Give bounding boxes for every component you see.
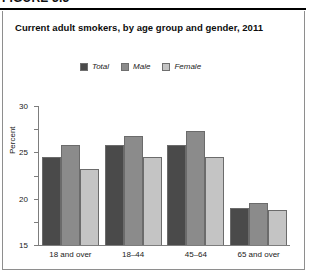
- bar-male: [249, 203, 268, 245]
- bar-group-bars: [102, 106, 165, 245]
- y-tick-mark: 0: [34, 245, 38, 246]
- figure-panel: FIGURE 3.3 Current adult smokers, by age…: [0, 0, 318, 272]
- category-label: 65 and over: [227, 250, 290, 259]
- y-tick-label: 20: [19, 194, 28, 203]
- chart-legend: TotalMaleFemale: [80, 62, 201, 71]
- bar-female: [205, 157, 224, 245]
- x-axis-category-labels: 18 and over18–4445–6465 and over: [39, 250, 290, 259]
- bar-total: [167, 145, 186, 245]
- bar-total: [42, 157, 61, 245]
- bar-group-bars: [39, 106, 102, 245]
- category-label: 45–64: [165, 250, 228, 259]
- y-tick-mark: 20: [34, 152, 38, 153]
- figure-number-label: FIGURE 3.3: [2, 0, 69, 5]
- y-axis-label: Percent: [8, 126, 17, 154]
- figure-divider-rule: [0, 8, 306, 10]
- legend-swatch-total: [80, 63, 88, 71]
- bar-total: [230, 208, 249, 245]
- bar-male: [124, 136, 143, 245]
- bar-male: [186, 131, 205, 245]
- bar-group-bars: [227, 106, 290, 245]
- x-axis-line: [38, 245, 290, 246]
- legend-label-total: Total: [92, 62, 109, 71]
- category-label: 18–44: [102, 250, 165, 259]
- legend-swatch-male: [121, 63, 129, 71]
- y-tick-mark: 30: [34, 106, 38, 107]
- legend-item-male: Male: [121, 62, 150, 71]
- legend-item-total: Total: [80, 62, 109, 71]
- bar-total: [105, 145, 124, 245]
- legend-item-female: Female: [162, 62, 201, 71]
- y-tick-mark: 15: [34, 176, 38, 177]
- bar-group-bars: [165, 106, 228, 245]
- plot-area: 051015202530: [38, 106, 290, 245]
- legend-swatch-female: [162, 63, 170, 71]
- category-label: 18 and over: [39, 250, 102, 259]
- y-tick-mark: 5: [34, 222, 38, 223]
- y-tick-label: 15: [19, 241, 28, 250]
- bar-female: [80, 169, 99, 245]
- y-tick-label: 25: [19, 148, 28, 157]
- bar-female: [268, 210, 287, 245]
- y-tick-label: 30: [19, 102, 28, 111]
- chart-title: Current adult smokers, by age group and …: [15, 22, 263, 33]
- y-tick-mark: 25: [34, 129, 38, 130]
- bar-groups: [39, 106, 290, 245]
- y-tick-mark: 10: [34, 199, 38, 200]
- bar-group: [227, 106, 290, 245]
- bar-male: [61, 145, 80, 245]
- bar-group: [39, 106, 102, 245]
- legend-label-male: Male: [133, 62, 150, 71]
- bar-group: [102, 106, 165, 245]
- legend-label-female: Female: [174, 62, 201, 71]
- bar-female: [143, 157, 162, 245]
- bar-group: [165, 106, 228, 245]
